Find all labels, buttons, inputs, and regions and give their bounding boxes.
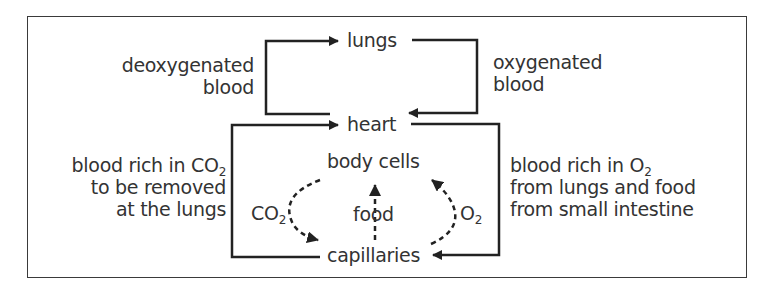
edge-heart-to-capillaries	[411, 124, 499, 255]
label-o2-rich-line1: blood rich in O2	[510, 154, 696, 176]
circulation-diagram: lungs heart body cells capillaries deoxy…	[0, 0, 770, 286]
edge-heart-to-lungs	[266, 41, 338, 114]
label-food: food	[353, 203, 394, 225]
label-co2-rich-line2: to be removed	[40, 176, 226, 198]
label-co2-rich-line3: at the lungs	[40, 198, 226, 220]
label-deoxygenated-line1: deoxygenated	[100, 54, 254, 76]
edge-co2-dotted	[289, 180, 320, 240]
edge-capillaries-to-heart	[232, 125, 338, 257]
label-oxygenated-line1: oxygenated	[493, 51, 602, 73]
label-co2-rich-blood: blood rich in CO2 to be removed at the l…	[40, 154, 226, 220]
label-oxygenated-line2: blood	[493, 73, 602, 95]
label-deoxygenated-blood: deoxygenated blood	[100, 54, 254, 98]
label-co2: CO2	[251, 202, 286, 224]
edge-o2-dotted	[431, 180, 455, 244]
label-deoxygenated-line2: blood	[100, 76, 254, 98]
label-o2-rich-line2: from lungs and food	[510, 176, 696, 198]
label-o2-rich-blood: blood rich in O2 from lungs and food fro…	[510, 154, 696, 220]
label-o2-rich-line3: from small intestine	[510, 198, 696, 220]
node-capillaries: capillaries	[327, 244, 420, 266]
label-co2-rich-line1: blood rich in CO2	[40, 154, 226, 176]
node-body-cells: body cells	[327, 150, 420, 172]
label-oxygenated-blood: oxygenated blood	[493, 51, 602, 95]
label-o2: O2	[460, 202, 482, 224]
node-lungs: lungs	[347, 29, 397, 51]
node-heart: heart	[347, 113, 396, 135]
edge-lungs-to-heart	[409, 40, 477, 113]
